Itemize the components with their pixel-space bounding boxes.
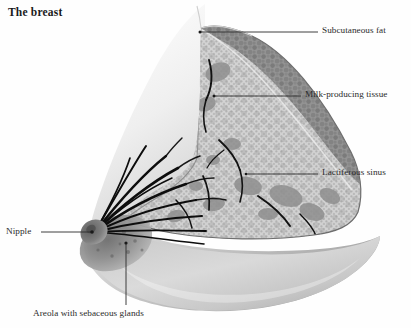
label-subcutaneous-fat: Subcutaneous fat (322, 25, 386, 35)
label-nipple: Nipple (6, 226, 31, 236)
breast-cross-section-illustration (0, 0, 411, 328)
label-milk-producing-tissue: Milk-producing tissue (305, 89, 387, 99)
figure-page: The breast (0, 0, 411, 328)
label-lactiferous-sinus: Lactiferous sinus (322, 167, 386, 177)
label-areola-with-sebaceous-glands: Areola with sebaceous glands (33, 308, 144, 318)
